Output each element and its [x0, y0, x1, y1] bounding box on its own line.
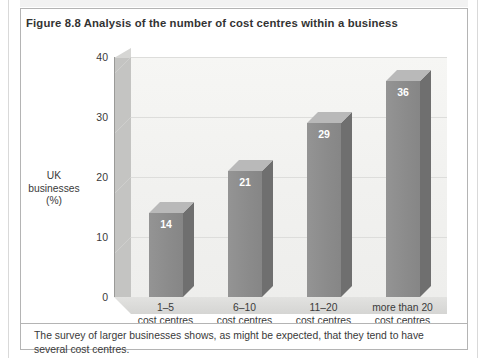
x-axis-category-label-line-2: cost centres	[279, 315, 369, 328]
figure-root: Figure 8.8 Analysis of the number of cos…	[0, 0, 486, 358]
x-axis-category-label-line-1: 6–10	[200, 302, 290, 315]
x-axis-category-label-line-1: 11–20	[279, 302, 369, 315]
y-axis-tick-label: 10	[80, 232, 108, 242]
page-rule-right	[477, 0, 478, 358]
gridline	[131, 57, 447, 58]
x-axis-category-label-line-2: cost centres	[358, 315, 448, 328]
y-axis-title: UK businesses (%)	[26, 170, 82, 208]
bar-front-face	[386, 81, 420, 297]
bar-value-label: 14	[149, 219, 183, 230]
bar-side-face	[420, 70, 431, 297]
bar-front-face	[228, 171, 262, 297]
figure-top-shadow	[20, 0, 468, 7]
bar-value-label: 36	[386, 87, 420, 98]
gridline-depth-connector	[114, 117, 131, 134]
figure-caption: The survey of larger businesses shows, a…	[34, 329, 454, 356]
bar-side-face	[262, 160, 273, 297]
gridline-depth-connector	[114, 237, 131, 254]
caption-divider	[21, 323, 467, 324]
page-rule-left	[8, 0, 9, 358]
x-axis-category-label-line-2: cost centres	[200, 315, 290, 328]
y-axis-tick-label: 20	[80, 172, 108, 182]
y-axis-tick-label: 30	[80, 112, 108, 122]
x-axis-category-label-line-1: more than 20	[358, 302, 448, 315]
bar-front-face	[307, 123, 341, 297]
gridline-depth-connector	[114, 177, 131, 194]
bar-side-face	[183, 202, 194, 297]
gridline-depth-connector	[114, 57, 131, 74]
y-axis-title-line-2: businesses	[26, 183, 82, 196]
x-axis-category-label-line-1: 1–5	[121, 302, 211, 315]
bar-side-face	[341, 112, 352, 297]
y-axis-line	[114, 57, 115, 297]
y-axis-tick-label: 0	[80, 292, 108, 302]
figure-title: Figure 8.8 Analysis of the number of cos…	[26, 17, 446, 29]
bar-value-label: 21	[228, 177, 262, 188]
y-axis-tick-label: 40	[80, 52, 108, 62]
bar-value-label: 29	[307, 129, 341, 140]
y-axis-title-line-1: UK	[26, 170, 82, 183]
bar-chart: 010203040 UK businesses (%) 14212936 1–5…	[26, 40, 462, 322]
x-axis-category-label-line-2: cost centres	[121, 315, 211, 328]
y-axis-title-line-3: (%)	[26, 195, 82, 208]
